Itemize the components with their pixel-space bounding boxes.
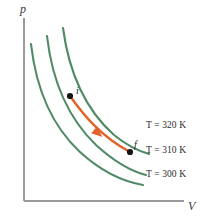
isotherm-label-300k: T = 300 K bbox=[146, 170, 186, 180]
x-axis-label: V bbox=[188, 200, 195, 212]
y-axis-label: p bbox=[20, 3, 26, 15]
state-point-i-label: i bbox=[76, 86, 79, 96]
state-point-f-label: f bbox=[134, 140, 137, 150]
isotherm-curve-300k bbox=[31, 44, 143, 185]
pv-diagram-figure: p V T = 320 K T = 310 K T = 300 K i f bbox=[0, 0, 206, 218]
state-point-f-marker bbox=[127, 149, 133, 155]
isotherm-label-320k: T = 320 K bbox=[146, 121, 186, 131]
isotherm-label-310k: T = 310 K bbox=[146, 146, 186, 156]
plot-canvas bbox=[0, 0, 206, 218]
state-point-i-marker bbox=[67, 93, 73, 99]
